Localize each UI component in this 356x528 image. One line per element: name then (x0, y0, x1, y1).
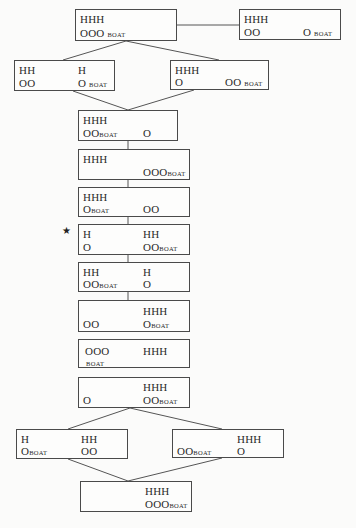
edge-n3-n4 (128, 90, 194, 110)
state-node: HHH OOOBOAT (78, 149, 190, 180)
edge-n11-n12 (68, 408, 130, 429)
people-count: OOO (80, 27, 104, 39)
boat-label: BOAT (86, 358, 104, 370)
edge-n12-n14 (68, 459, 128, 481)
edge-n0-n2 (63, 41, 126, 60)
node-top-left: H (21, 433, 29, 445)
people-count: OOO (145, 498, 169, 510)
boat-label: BOAT (167, 170, 185, 177)
node-top-right: HHH (143, 345, 167, 357)
people-count: OO (143, 394, 159, 406)
node-top-right: HHH (237, 433, 261, 445)
boat-label: BOAT (314, 30, 332, 37)
state-node-start: HHH OOO BOAT (75, 9, 177, 41)
node-bottom-right: OO BOAT (225, 76, 262, 90)
state-node: HHH OOBOAT O (172, 429, 284, 458)
node-bottom-left: O (83, 241, 91, 253)
state-node-starred: H HH O OOBOAT (78, 224, 190, 255)
boat-label: BOAT (151, 322, 169, 329)
boat-label: BOAT (193, 449, 211, 456)
node-bottom-left: OOBOAT (83, 127, 117, 141)
state-node-dead-end: HHH OO O BOAT (239, 9, 341, 40)
people-count: OO (83, 127, 99, 139)
node-bottom-right: O (143, 127, 151, 139)
node-top-left: OOO (85, 345, 109, 357)
node-bottom-right: O BOAT (78, 77, 107, 91)
boat-label: BOAT (159, 398, 177, 405)
node-bottom-left: OOBOAT (83, 278, 117, 292)
node-top-left: HH (83, 266, 99, 278)
node-bottom-right: OOBOAT (143, 394, 177, 408)
node-top-left: HHH (83, 114, 107, 126)
boat-label: BOAT (107, 31, 125, 38)
people-count: O (21, 445, 29, 457)
boat-label: BOAT (159, 245, 177, 252)
people-count: OO (177, 445, 193, 457)
node-bottom-right: OOOBOAT (145, 498, 188, 512)
edge-n11-n13 (130, 408, 222, 429)
node-bottom-right: OOBOAT (143, 241, 177, 255)
node-top-left: HHH (80, 13, 104, 25)
node-bottom-left: OOBOAT (177, 445, 211, 459)
state-node: HHH O OOBOAT (78, 377, 190, 408)
node-bottom-right: OO (81, 445, 97, 457)
state-node-isolated: OOO HHH BOAT (78, 339, 190, 368)
node-top-left: HHH (175, 64, 199, 76)
node-bottom-right: O (237, 445, 245, 457)
node-bottom-left: OBOAT (21, 445, 47, 459)
people-count: O (83, 203, 91, 215)
state-node: HHH O OO BOAT (170, 60, 269, 90)
people-count: O (143, 318, 151, 330)
node-top-right: HHH (145, 485, 169, 497)
star-marker-icon: ★ (62, 226, 71, 236)
people-count: O (303, 26, 311, 38)
node-top-right: HHH (143, 305, 167, 317)
people-count: OO (83, 278, 99, 290)
node-top-right: HHH (143, 381, 167, 393)
node-bottom-left: OO (83, 318, 99, 330)
people-count: OOO (143, 166, 167, 178)
node-bottom-left: OO (19, 77, 35, 89)
boat-label: BOAT (29, 449, 47, 456)
boat-label: BOAT (89, 81, 107, 88)
node-top-left: HHH (83, 191, 107, 203)
node-bottom-left: OBOAT (83, 203, 109, 217)
people-count: OO (143, 241, 159, 253)
node-bottom-right: O (143, 278, 151, 290)
node-top-left: HH (19, 64, 35, 76)
node-bottom-left: OO (244, 26, 260, 38)
people-count: O (78, 77, 86, 89)
node-top-left: HHH (244, 13, 268, 25)
state-node: HH H OOBOAT O (78, 262, 190, 292)
node-top-right: H (78, 64, 86, 76)
state-node: HHH OOBOAT O (78, 110, 178, 141)
node-bottom-left: O (175, 76, 183, 88)
node-bottom-right: OBOAT (143, 318, 169, 332)
node-bottom-right: OO (143, 203, 159, 215)
boat-label: BOAT (91, 207, 109, 214)
state-node: HH H OO O BOAT (14, 60, 115, 91)
node-bottom-left: OOO BOAT (80, 27, 126, 41)
node-top-left: H (83, 228, 91, 240)
boat-label: BOAT (244, 80, 262, 87)
state-node: H HH OBOAT OO (16, 429, 128, 459)
node-bottom-right: O BOAT (303, 26, 332, 40)
edge-n0-n3 (126, 41, 219, 60)
node-bottom-right: OOOBOAT (143, 166, 186, 180)
node-top-right: H (143, 266, 151, 278)
node-top-right: HH (143, 228, 159, 240)
state-node: HHH OO OBOAT (78, 300, 190, 332)
boat-label: BOAT (99, 131, 117, 138)
people-count: OO (225, 76, 241, 88)
node-bottom-left: O (83, 394, 91, 406)
node-top-right: HH (81, 433, 97, 445)
state-node-goal: HHH OOOBOAT (80, 481, 192, 512)
boat-label: BOAT (99, 282, 117, 289)
edge-n2-n4 (73, 91, 128, 110)
state-node: HHH OBOAT OO (78, 187, 190, 217)
boat-label: BOAT (169, 502, 187, 509)
edge-n13-n14 (128, 458, 222, 481)
node-top-left: HHH (83, 153, 107, 165)
